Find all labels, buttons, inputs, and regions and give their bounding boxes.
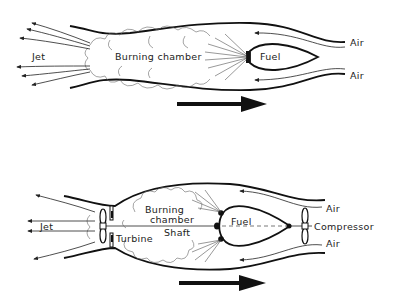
turbojet-lower-wall [64,248,325,270]
turbojet-turbine-label: Turbine [115,233,153,244]
turbojet-shaft-label: Shaft [164,227,190,238]
engine-diagrams: Jet Burning chamber Fuel Air Air [0,0,402,296]
turbojet-direction-arrow-icon [179,275,266,291]
ramjet-air-bottom-label: Air [350,70,364,81]
ramjet-air-top-label: Air [350,37,364,48]
turbojet-diagram: Jet Burning chamber Fuel Shaft Turbine C… [28,183,374,291]
turbojet-chamber-label-2: chamber [150,214,194,225]
ramjet-jet-label: Jet [31,51,45,62]
turbine-icon [100,206,113,247]
air-flow-top [255,33,345,47]
ramjet-upper-wall [70,23,345,42]
turbojet-upper-wall [64,183,325,206]
ramjet-diagram: Jet Burning chamber Fuel Air Air [17,23,364,112]
ramjet-exhaust-flows [17,23,90,85]
ramjet-direction-arrow-icon [177,96,267,112]
turbojet-fuel-label: Fuel [231,216,252,227]
turbojet-air-top-label: Air [326,203,340,214]
ramjet-chamber-label: Burning chamber [115,51,202,62]
turbojet-air-bottom-label: Air [326,238,340,249]
turbojet-exhaust-flows [28,195,95,259]
turbojet-air-flow-top [240,191,322,207]
ramjet-fuel-label: Fuel [260,51,281,62]
turbojet-compressor-label: Compressor [314,221,374,232]
turbojet-jet-label: Jet [39,221,53,232]
ramjet-spray [205,34,247,80]
compressor-icon [302,208,308,244]
